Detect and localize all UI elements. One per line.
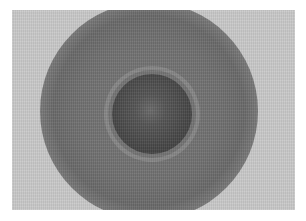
photo	[12, 10, 295, 210]
dark-core	[112, 74, 192, 154]
